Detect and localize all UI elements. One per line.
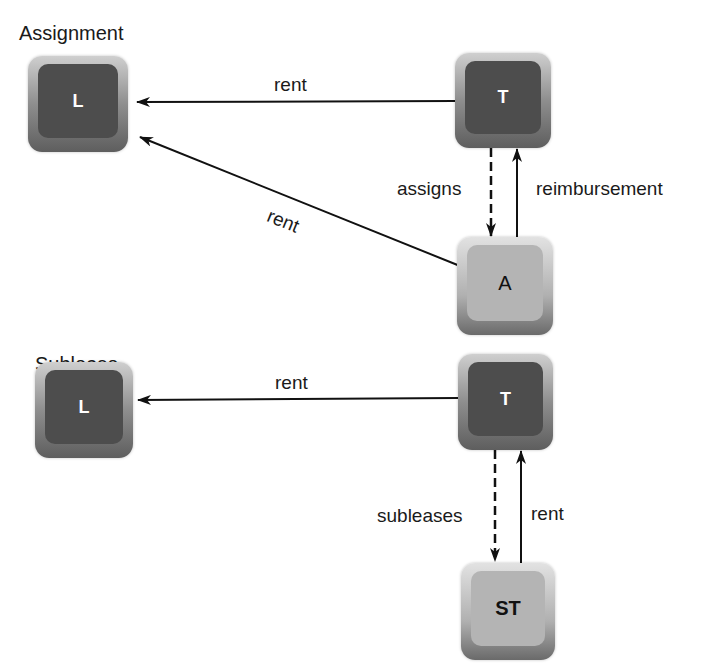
- sublease-subtenant-node: ST: [461, 563, 555, 660]
- assignment-tenant-label: T: [465, 61, 541, 134]
- assignment-rent-label-top: rent: [274, 74, 307, 96]
- sublease-landlord-label: L: [45, 370, 123, 444]
- assignment-assigns-label: assigns: [397, 178, 461, 200]
- assignment-title: Assignment: [19, 22, 124, 45]
- assignment-landlord-label: L: [38, 64, 118, 138]
- arrow-assignment-tenant-to-landlord: [137, 101, 455, 102]
- sublease-tenant-label: T: [468, 362, 543, 436]
- assignment-landlord-node: L: [28, 56, 128, 152]
- assignment-reimbursement-label: reimbursement: [536, 178, 663, 200]
- arrow-sublease-tenant-to-landlord: [138, 398, 458, 400]
- assignment-assignee-label: A: [467, 245, 543, 321]
- sublease-landlord-node: L: [35, 362, 133, 458]
- sublease-rent-label-side: rent: [531, 503, 564, 525]
- sublease-rent-label-top: rent: [275, 372, 308, 394]
- sublease-subtenant-label: ST: [471, 571, 545, 646]
- sublease-subleases-label: subleases: [377, 505, 463, 527]
- sublease-tenant-node: T: [458, 354, 553, 450]
- arrow-assignment-assignee-to-landlord: [140, 137, 460, 266]
- assignment-assignee-node: A: [457, 237, 553, 335]
- assignment-tenant-node: T: [455, 53, 551, 148]
